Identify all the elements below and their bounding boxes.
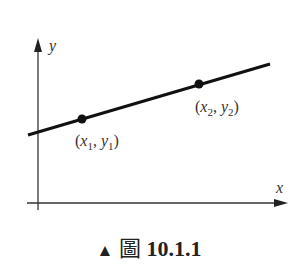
x-axis-arrow-icon — [274, 199, 288, 207]
point-2 — [195, 80, 204, 89]
caption-number: 10.1.1 — [146, 236, 201, 261]
figure-caption: ▲ 圖 10.1.1 — [0, 230, 298, 262]
triangle-marker-icon: ▲ — [97, 241, 114, 260]
point-1-label: (x1, y1) — [75, 133, 119, 152]
point-2-label: (x2, y2) — [195, 99, 239, 118]
x-axis-label: x — [276, 180, 283, 196]
y-axis-arrow-icon — [34, 38, 42, 52]
point-1 — [78, 115, 87, 124]
y-axis-label: y — [49, 38, 56, 54]
caption-word: 圖 — [119, 236, 141, 261]
